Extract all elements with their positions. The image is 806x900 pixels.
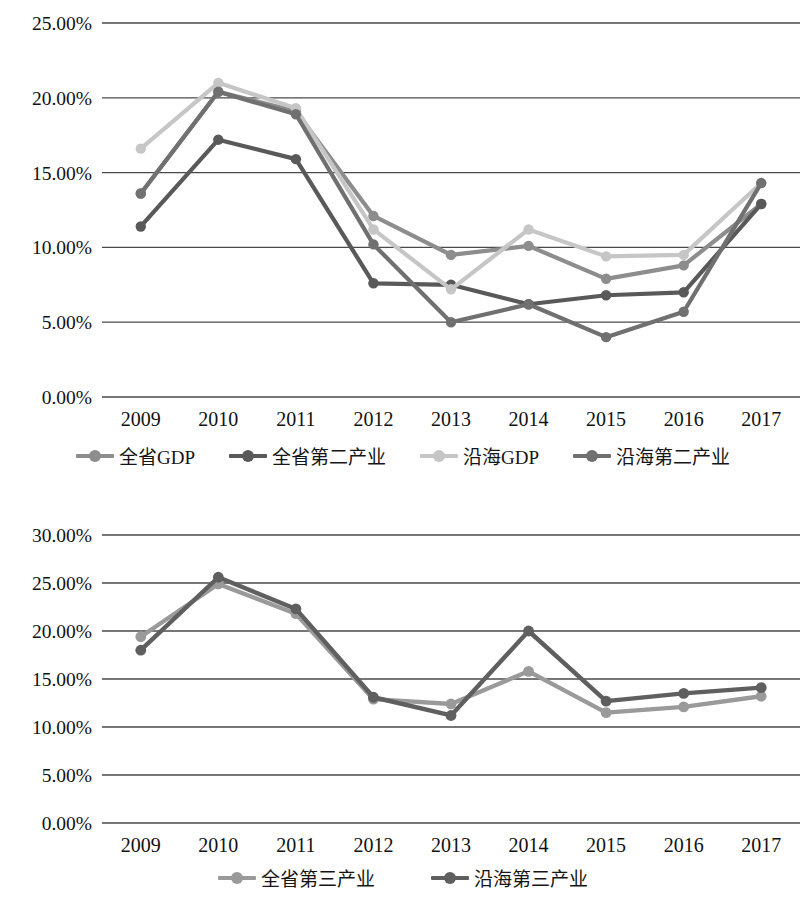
legend-dot-swatch bbox=[433, 450, 445, 462]
x-axis-tick-label: 2016 bbox=[664, 408, 704, 430]
data-point-marker bbox=[523, 666, 534, 677]
series-line bbox=[141, 92, 761, 337]
data-point-marker bbox=[601, 251, 611, 261]
y-axis-tick-label: 25.00% bbox=[32, 573, 92, 594]
data-point-marker bbox=[446, 250, 456, 260]
legend-item[interactable]: 全省第三产业 bbox=[218, 864, 375, 891]
x-axis-tick-label: 2013 bbox=[431, 834, 471, 856]
y-axis-tick-label: 30.00% bbox=[32, 525, 92, 546]
data-point-marker bbox=[523, 241, 533, 251]
legend-marker-icon bbox=[420, 450, 458, 462]
y-axis-tick-label: 5.00% bbox=[42, 312, 92, 333]
data-point-marker bbox=[291, 154, 301, 164]
data-point-marker bbox=[368, 278, 378, 288]
data-point-marker bbox=[756, 199, 766, 209]
legend-marker-icon bbox=[218, 872, 256, 884]
data-point-marker bbox=[213, 572, 224, 583]
data-point-marker bbox=[446, 284, 456, 294]
data-point-marker bbox=[601, 707, 612, 718]
legend-label: 全省第二产业 bbox=[272, 442, 386, 469]
legend-item[interactable]: 沿海第二产业 bbox=[573, 442, 730, 469]
legend-dot-swatch bbox=[242, 450, 254, 462]
y-axis-tick-label: 0.00% bbox=[42, 813, 92, 834]
data-point-marker bbox=[446, 710, 457, 721]
legend-dot-swatch bbox=[586, 450, 598, 462]
top-line-chart: 0.00%5.00%10.00%15.00%20.00%25.00%200920… bbox=[0, 0, 806, 440]
x-axis-tick-label: 2009 bbox=[121, 408, 161, 430]
top-chart-block: 0.00%5.00%10.00%15.00%20.00%25.00%200920… bbox=[0, 0, 806, 478]
legend-label: 沿海GDP bbox=[463, 442, 539, 469]
data-point-marker bbox=[136, 188, 146, 198]
data-point-marker bbox=[135, 645, 146, 656]
legend-marker-icon bbox=[431, 872, 469, 884]
data-point-marker bbox=[601, 274, 611, 284]
legend-item[interactable]: 全省GDP bbox=[76, 442, 195, 469]
y-axis-tick-label: 10.00% bbox=[32, 237, 92, 258]
data-point-marker bbox=[523, 299, 533, 309]
legend-marker-icon bbox=[76, 450, 114, 462]
x-axis-tick-label: 2013 bbox=[431, 408, 471, 430]
y-axis-tick-label: 5.00% bbox=[42, 765, 92, 786]
data-point-marker bbox=[678, 250, 688, 260]
data-point-marker bbox=[136, 221, 146, 231]
data-point-marker bbox=[290, 604, 301, 615]
data-point-marker bbox=[368, 211, 378, 221]
top-chart-legend: 全省GDP全省第二产业沿海GDP沿海第二产业 bbox=[0, 442, 806, 469]
legend-dot-swatch bbox=[231, 872, 243, 884]
y-axis-tick-label: 15.00% bbox=[32, 669, 92, 690]
legend-marker-icon bbox=[573, 450, 611, 462]
x-axis-tick-label: 2010 bbox=[198, 408, 238, 430]
legend-label: 沿海第三产业 bbox=[474, 864, 588, 891]
x-axis-tick-label: 2015 bbox=[586, 834, 626, 856]
data-point-marker bbox=[601, 332, 611, 342]
data-point-marker bbox=[678, 701, 689, 712]
series-line bbox=[141, 140, 761, 305]
data-point-marker bbox=[601, 290, 611, 300]
x-axis-tick-label: 2012 bbox=[353, 834, 393, 856]
y-axis-tick-label: 0.00% bbox=[42, 387, 92, 408]
bottom-chart-legend: 全省第三产业沿海第三产业 bbox=[0, 864, 806, 891]
x-axis-tick-label: 2011 bbox=[276, 408, 315, 430]
data-point-marker bbox=[213, 78, 223, 88]
y-axis-tick-label: 10.00% bbox=[32, 717, 92, 738]
data-point-marker bbox=[213, 87, 223, 97]
x-axis-tick-label: 2014 bbox=[509, 834, 549, 856]
legend-label: 全省第三产业 bbox=[261, 864, 375, 891]
legend-item[interactable]: 沿海GDP bbox=[420, 442, 539, 469]
data-point-marker bbox=[678, 260, 688, 270]
bottom-chart-block: 0.00%5.00%10.00%15.00%20.00%25.00%30.00%… bbox=[0, 500, 806, 900]
legend-item[interactable]: 沿海第三产业 bbox=[431, 864, 588, 891]
data-point-marker bbox=[678, 287, 688, 297]
y-axis-tick-label: 20.00% bbox=[32, 621, 92, 642]
data-point-marker bbox=[213, 134, 223, 144]
legend-item[interactable]: 全省第二产业 bbox=[229, 442, 386, 469]
data-point-marker bbox=[446, 699, 457, 710]
x-axis-tick-label: 2009 bbox=[121, 834, 161, 856]
legend-label: 全省GDP bbox=[119, 442, 195, 469]
data-point-marker bbox=[601, 696, 612, 707]
legend-marker-icon bbox=[229, 450, 267, 462]
legend-dot-swatch bbox=[444, 872, 456, 884]
legend-dot-swatch bbox=[89, 450, 101, 462]
data-point-marker bbox=[136, 143, 146, 153]
y-axis-tick-label: 25.00% bbox=[32, 13, 92, 34]
x-axis-tick-label: 2016 bbox=[664, 834, 704, 856]
data-point-marker bbox=[135, 631, 146, 642]
x-axis-tick-label: 2010 bbox=[198, 834, 238, 856]
y-axis-tick-label: 15.00% bbox=[32, 163, 92, 184]
data-point-marker bbox=[523, 626, 534, 637]
x-axis-tick-label: 2017 bbox=[741, 834, 781, 856]
data-point-marker bbox=[523, 224, 533, 234]
x-axis-tick-label: 2015 bbox=[586, 408, 626, 430]
bottom-line-chart: 0.00%5.00%10.00%15.00%20.00%25.00%30.00%… bbox=[0, 500, 806, 860]
x-axis-tick-label: 2012 bbox=[353, 408, 393, 430]
data-point-marker bbox=[756, 682, 767, 693]
y-axis-tick-label: 20.00% bbox=[32, 88, 92, 109]
chart-page: 0.00%5.00%10.00%15.00%20.00%25.00%200920… bbox=[0, 0, 806, 900]
data-point-marker bbox=[446, 317, 456, 327]
legend-label: 沿海第二产业 bbox=[616, 442, 730, 469]
x-axis-tick-label: 2017 bbox=[741, 408, 781, 430]
data-point-marker bbox=[756, 178, 766, 188]
data-point-marker bbox=[678, 688, 689, 699]
x-axis-tick-label: 2011 bbox=[276, 834, 315, 856]
